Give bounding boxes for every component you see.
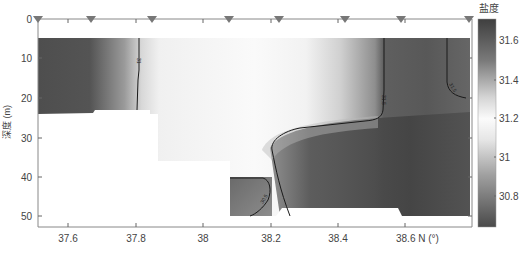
colorbar-tick-label: 30.8 bbox=[499, 191, 519, 202]
salinity-field bbox=[38, 38, 470, 227]
y-tick-label: 10 bbox=[21, 53, 33, 64]
x-tick-label: 38.4 bbox=[328, 233, 348, 244]
x-tick-label: 37.8 bbox=[126, 233, 146, 244]
y-tick-label: 0 bbox=[26, 14, 32, 25]
colorbar-tick-label: 31.4 bbox=[499, 75, 519, 86]
colorbar-tick-label: 31.6 bbox=[499, 35, 519, 46]
x-tick-label: 38 bbox=[197, 233, 209, 244]
contour-label-31-5: 31.5 bbox=[381, 95, 387, 105]
y-tick-label: 50 bbox=[21, 211, 33, 222]
colorbar-title: 盐度 bbox=[479, 2, 499, 14]
colorbar: 盐度 31.6 31.4 31.2 31 30.8 bbox=[478, 2, 519, 227]
y-tick-label: 40 bbox=[21, 172, 33, 183]
salinity-section-figure: 31 31.5 31.5 30.5 0 10 20 bbox=[0, 0, 519, 255]
x-tick-label: 38.2 bbox=[261, 233, 281, 244]
y-axis-label: 深度 (m) bbox=[1, 105, 12, 139]
y-tick-label: 20 bbox=[21, 93, 33, 104]
x-tick-label: 38.6 N (°) bbox=[396, 233, 439, 244]
x-tick-label: 37.6 bbox=[58, 233, 78, 244]
y-tick-labels: 0 10 20 30 40 50 bbox=[21, 14, 33, 222]
y-tick-label: 30 bbox=[21, 133, 33, 144]
contour-label-31: 31 bbox=[136, 58, 142, 64]
colorbar-tick-label: 31 bbox=[499, 152, 511, 163]
colorbar-tick-label: 31.2 bbox=[499, 113, 519, 124]
x-tick-labels: 37.6 37.8 38 38.2 38.4 38.6 N (°) bbox=[58, 233, 439, 244]
